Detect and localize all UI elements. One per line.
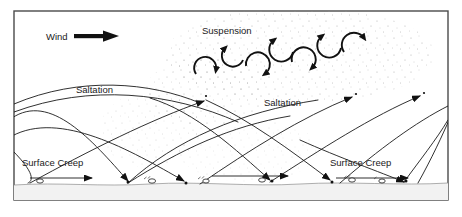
label-wind: Wind [46, 31, 68, 42]
diagram-canvas: Wind Suspension Saltation Saltation Surf… [0, 0, 462, 217]
label-suspension: Suspension [202, 25, 252, 36]
aeolian-transport-figure: Wind Suspension Saltation Saltation Surf… [0, 0, 462, 217]
label-surface-creep-right: Surface Creep [330, 157, 391, 168]
label-surface-creep-left: Surface Creep [22, 157, 83, 168]
wind-arrow-icon [74, 31, 119, 42]
label-saltation-left: Saltation [76, 84, 113, 95]
sand-ground [14, 183, 448, 200]
label-saltation-right: Saltation [264, 97, 301, 108]
